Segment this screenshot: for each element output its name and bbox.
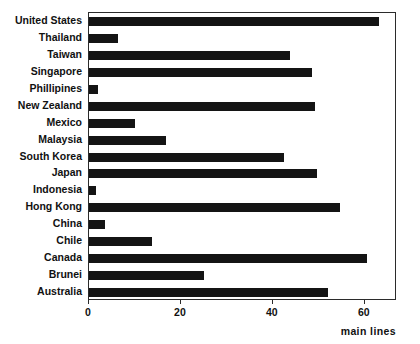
bar [89, 169, 317, 178]
x-tick-label: 20 [160, 306, 200, 318]
bar [89, 186, 96, 195]
bar [89, 153, 284, 162]
category-label: New Zealand [0, 100, 82, 111]
category-label: Singapore [0, 66, 82, 77]
category-label: Phillipines [0, 83, 82, 94]
category-label: Taiwan [0, 49, 82, 60]
bar [89, 136, 166, 145]
bars-container [89, 13, 395, 299]
x-axis: 0204060 [88, 300, 396, 301]
category-label: Australia [0, 286, 82, 297]
category-label: China [0, 218, 82, 229]
category-label: Malaysia [0, 134, 82, 145]
x-tick-mark [180, 300, 181, 304]
bar [89, 85, 98, 94]
x-axis-title: main lines [256, 325, 396, 337]
category-label: Indonesia [0, 184, 82, 195]
bar [89, 203, 340, 212]
bar [89, 17, 379, 26]
bar [89, 34, 118, 43]
bar [89, 68, 312, 77]
bar [89, 254, 367, 263]
x-tick-mark [364, 300, 365, 304]
category-label: Thailand [0, 32, 82, 43]
bar [89, 237, 152, 246]
x-tick-label: 0 [68, 306, 108, 318]
bar [89, 271, 204, 280]
x-tick-mark [88, 300, 89, 304]
bar [89, 288, 328, 297]
category-label: Japan [0, 167, 82, 178]
bar [89, 220, 105, 229]
bar [89, 51, 290, 60]
x-tick-mark [272, 300, 273, 304]
bar [89, 119, 135, 128]
plot-area [88, 12, 396, 300]
x-tick-label: 40 [252, 306, 292, 318]
category-label: Hong Kong [0, 201, 82, 212]
category-label: United States [0, 15, 82, 26]
category-label: South Korea [0, 151, 82, 162]
category-label: Chile [0, 235, 82, 246]
category-axis-labels: United StatesThailandTaiwanSingaporePhil… [0, 12, 85, 300]
category-label: Mexico [0, 117, 82, 128]
category-label: Brunei [0, 269, 82, 280]
bar [89, 102, 315, 111]
category-label: Canada [0, 252, 82, 263]
x-tick-label: 60 [344, 306, 384, 318]
bar-chart: United StatesThailandTaiwanSingaporePhil… [0, 0, 420, 344]
